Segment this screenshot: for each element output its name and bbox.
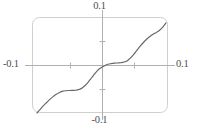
axis-label-bottom: -0.1 (0, 115, 199, 126)
axis-label-top: 0.1 (0, 1, 199, 12)
axis-label-left: -0.1 (3, 59, 19, 70)
data-curve (37, 23, 166, 113)
plot-canvas (0, 0, 199, 130)
plot-figure: 0.1 -0.1 -0.1 0.1 (0, 0, 199, 130)
axis-label-right: 0.1 (176, 59, 189, 70)
